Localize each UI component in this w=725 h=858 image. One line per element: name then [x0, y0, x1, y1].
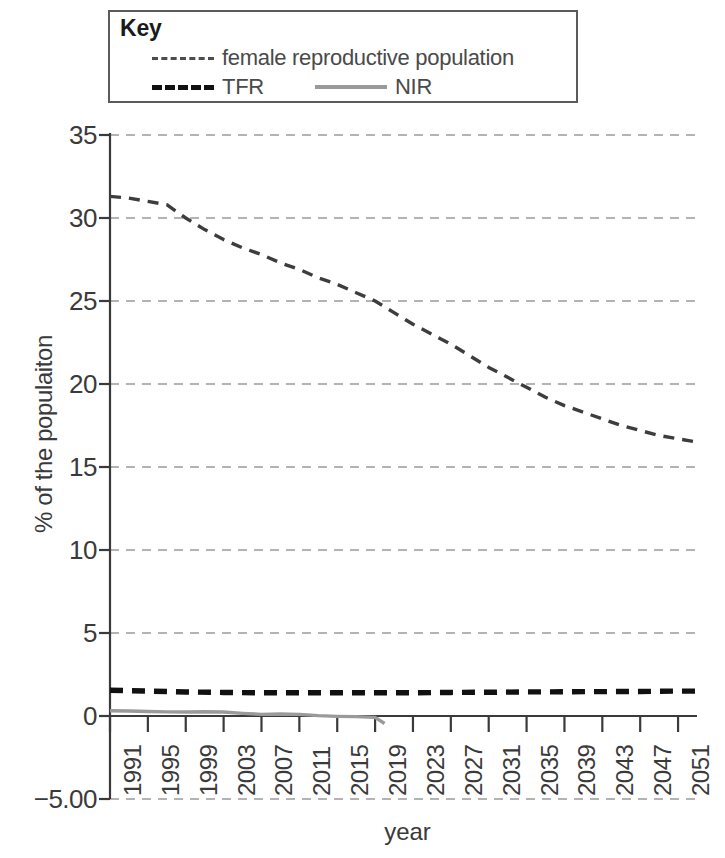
series-line-female-reproductive-population	[110, 196, 697, 442]
series-line-tfr	[110, 690, 697, 692]
chart-container: Key female reproductive population TFR N…	[0, 0, 725, 858]
plot-area	[0, 0, 725, 858]
